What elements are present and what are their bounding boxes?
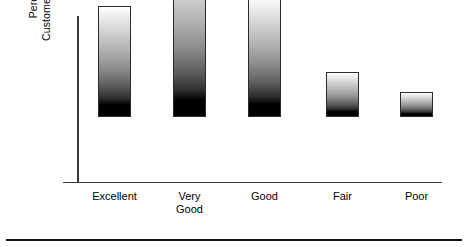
bar-chart-figure: Percentage of Customers Responding Excel… (0, 0, 468, 247)
bar-very-good (173, 0, 206, 117)
plot-area (0, 0, 468, 182)
bottom-divider (6, 239, 462, 241)
x-axis-label-poor: Poor (369, 190, 465, 203)
bar-poor (400, 92, 433, 117)
bar-fair (326, 72, 359, 117)
bar-good (248, 0, 281, 117)
bar-excellent (98, 6, 131, 117)
